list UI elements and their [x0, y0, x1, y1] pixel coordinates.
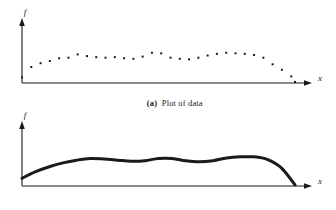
data-point [160, 52, 162, 54]
data-point [290, 75, 292, 77]
data-point [216, 53, 218, 55]
data-point [132, 58, 134, 60]
data-point [40, 62, 42, 64]
data-point [197, 57, 199, 59]
data-point [49, 60, 51, 62]
y-axis-label-b: f [24, 110, 28, 120]
data-point [123, 57, 125, 59]
data-point [21, 77, 23, 79]
data-point [234, 52, 236, 54]
data-point [86, 55, 88, 57]
spline-figure: f x (a) Plot of data f x (b) Plot of spl… [0, 0, 336, 210]
data-point [142, 56, 144, 58]
x-axis-label-a: x [317, 73, 322, 83]
spline-plot-axes: f x [0, 100, 336, 210]
data-point [281, 69, 283, 71]
y-axis-arrowhead-a [19, 18, 25, 26]
data-point [58, 57, 60, 59]
data-point [179, 58, 181, 60]
data-point [77, 53, 79, 55]
data-point [294, 81, 296, 83]
x-axis-arrowhead-a [304, 80, 312, 86]
x-axis-arrowhead-b [304, 183, 312, 189]
data-point [67, 57, 69, 59]
data-point [30, 66, 32, 68]
x-axis-label-b: x [317, 176, 322, 186]
panel-plot-of-spline: f x (b) Plot of spline [0, 100, 336, 210]
data-point [244, 53, 246, 55]
data-point [272, 63, 274, 65]
spline-curve [22, 157, 295, 185]
data-point [262, 57, 264, 59]
data-point [105, 57, 107, 59]
data-point [253, 54, 255, 56]
data-point [225, 52, 227, 54]
data-point [95, 56, 97, 58]
data-point [188, 58, 190, 60]
scatter-data-points [21, 52, 296, 83]
data-point [151, 52, 153, 54]
panel-plot-of-data: f x (a) Plot of data [0, 0, 336, 105]
data-point [170, 57, 172, 59]
data-point [207, 55, 209, 57]
y-axis-label-a: f [24, 7, 28, 17]
y-axis-arrowhead-b [19, 121, 25, 129]
data-point [114, 56, 116, 58]
